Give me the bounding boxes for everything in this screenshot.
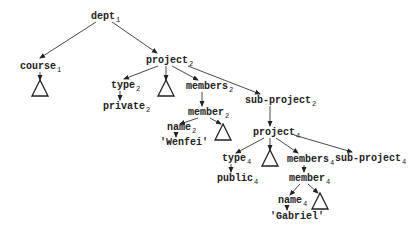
node-subscript: 4 <box>247 158 251 166</box>
node-subscript: 2 <box>312 100 316 108</box>
node-label: project <box>253 127 295 138</box>
node-subscript: 4 <box>402 158 406 166</box>
node-subscript: 2 <box>229 86 233 94</box>
edge-arrow <box>308 184 318 193</box>
node-label: course <box>20 61 56 72</box>
node-label: member <box>188 107 224 118</box>
edge-arrow <box>276 138 298 153</box>
tree-node: project2 <box>146 55 193 68</box>
node-label: project <box>146 55 188 66</box>
node-label: public <box>217 173 253 184</box>
node-subscript: 4 <box>326 178 330 186</box>
tree-node: 'Gabriel' <box>270 211 324 222</box>
edge-arrow <box>112 22 157 53</box>
edge-arrow <box>294 135 352 152</box>
node-label: name <box>167 122 191 133</box>
node-subscript: 2 <box>192 127 196 135</box>
node-subscript: 4 <box>303 200 307 208</box>
tree-node: type2 <box>111 80 140 93</box>
tree-node: course1 <box>20 61 61 74</box>
node-label: type <box>111 80 135 91</box>
tree-node: public4 <box>217 173 258 186</box>
node-label: members <box>287 154 329 165</box>
tree-node: members4 <box>287 154 334 167</box>
subtree-triangle-icon <box>262 150 278 166</box>
node-label: private <box>103 101 145 112</box>
node-label: 'Gabriel' <box>270 211 324 222</box>
edge-arrow <box>124 66 158 79</box>
node-label: name <box>278 195 302 206</box>
tree-node: name4 <box>278 195 307 208</box>
tree-diagram: dept1course1project2type2private2members… <box>0 0 410 232</box>
edge-arrow <box>290 184 300 195</box>
subtree-triangle-icon <box>158 80 174 96</box>
node-label: type <box>222 153 246 164</box>
tree-node: sub-project4 <box>335 153 406 166</box>
node-label: members <box>186 81 228 92</box>
node-subscript: 2 <box>146 106 150 114</box>
node-subscript: 2 <box>136 85 140 93</box>
nodes-layer: dept1course1project2type2private2members… <box>20 11 406 222</box>
tree-node: type4 <box>222 153 251 166</box>
node-label: 'Wenfei' <box>160 137 208 148</box>
subtree-triangle-icon <box>312 193 328 209</box>
tree-node: member2 <box>188 107 229 120</box>
node-subscript: 2 <box>225 112 229 120</box>
node-subscript: 1 <box>116 16 120 24</box>
tree-node: name2 <box>167 122 196 135</box>
tree-node: sub-project2 <box>245 95 316 108</box>
edge-arrow <box>236 138 264 153</box>
node-subscript: 4 <box>254 178 258 186</box>
node-subscript: 1 <box>57 66 61 74</box>
node-label: dept <box>91 11 115 22</box>
subtree-triangle-icon <box>215 124 231 140</box>
node-subscript: 4 <box>330 159 334 167</box>
node-label: sub-project <box>335 153 401 164</box>
node-subscript: 4 <box>296 132 300 140</box>
node-label: sub-project <box>245 95 311 106</box>
tree-node: 'Wenfei' <box>160 137 208 148</box>
subtree-triangle-icon <box>32 80 48 96</box>
edge-arrow <box>210 118 221 124</box>
node-subscript: 2 <box>189 60 193 68</box>
edge-arrow <box>40 22 96 58</box>
node-label: member <box>289 173 325 184</box>
tree-node: members2 <box>186 81 233 94</box>
tree-node: private2 <box>103 101 150 114</box>
tree-node: member4 <box>289 173 330 186</box>
